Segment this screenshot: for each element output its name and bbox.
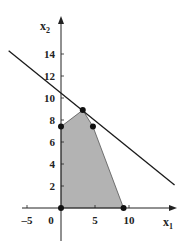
x-tick-label: 10 xyxy=(124,214,136,226)
y-tick-label: 6 xyxy=(50,136,56,148)
vertex-point xyxy=(58,124,64,130)
y-tick-label: 4 xyxy=(50,158,56,170)
y-axis-label: x2 xyxy=(40,19,50,35)
x-axis-arrow-icon xyxy=(169,205,177,211)
vertex-point xyxy=(90,124,96,130)
vertex-point xyxy=(58,205,64,211)
y-tick-label: 8 xyxy=(50,114,56,126)
y-tick-label: 10 xyxy=(44,92,56,104)
y-tick-label: 12 xyxy=(44,70,56,82)
linear-programming-chart: –505102468101214 x2 x1 xyxy=(0,0,184,248)
y-axis-arrow-icon xyxy=(58,16,64,24)
x-tick-label: 0 xyxy=(48,214,54,226)
x-axis-label: x1 xyxy=(163,215,173,231)
x-tick-label: 5 xyxy=(92,214,98,226)
vertex-point xyxy=(80,107,86,113)
y-tick-label: 14 xyxy=(44,48,56,60)
vertex-point xyxy=(121,205,127,211)
x-tick-label: –5 xyxy=(21,214,34,226)
y-tick-label: 2 xyxy=(50,180,56,192)
